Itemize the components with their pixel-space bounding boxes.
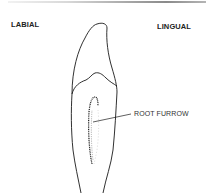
tooth-diagram bbox=[0, 0, 206, 193]
cej-line bbox=[72, 73, 117, 94]
root-furrow-leader-line bbox=[93, 114, 131, 122]
root-furrow-inner-stipple bbox=[91, 110, 93, 160]
root-outline-lingual bbox=[103, 92, 117, 193]
root-furrow-right-stipple bbox=[94, 110, 99, 164]
root-furrow-shape bbox=[89, 97, 98, 164]
root-outline-labial bbox=[71, 94, 81, 193]
